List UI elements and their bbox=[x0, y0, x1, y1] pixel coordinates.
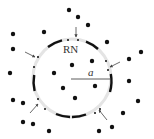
pore-marker-dot bbox=[77, 39, 79, 41]
particle-dot bbox=[139, 50, 143, 54]
pore-marker-dot bbox=[105, 60, 107, 62]
particle-dot bbox=[127, 57, 131, 61]
particle-dot bbox=[97, 129, 101, 133]
particle-dot bbox=[105, 40, 109, 44]
particle-dot bbox=[86, 23, 90, 27]
ring-segment bbox=[34, 75, 35, 91]
particle-dot bbox=[121, 111, 125, 115]
pore-marker-dot bbox=[94, 112, 96, 114]
arrow-icon bbox=[110, 62, 120, 67]
particle-dot bbox=[93, 84, 97, 88]
particle-dot bbox=[73, 96, 77, 100]
particle-dot bbox=[11, 32, 15, 36]
particle-dot bbox=[61, 86, 65, 90]
particle-dot bbox=[31, 122, 35, 126]
particle-dot bbox=[11, 98, 15, 102]
arrow-icon bbox=[25, 52, 35, 57]
pore-marker-dot bbox=[37, 56, 39, 58]
outside-particles bbox=[8, 8, 143, 133]
particle-dot bbox=[21, 101, 25, 105]
ring-segment bbox=[86, 42, 98, 49]
particle-dot bbox=[21, 120, 25, 124]
pore-marker-dot bbox=[33, 66, 35, 68]
particle-dot bbox=[110, 125, 114, 129]
particle-dot bbox=[11, 47, 15, 51]
inside-particles bbox=[52, 59, 97, 100]
center-label: RN bbox=[63, 43, 78, 55]
particle-dot bbox=[8, 71, 12, 75]
particle-dot bbox=[136, 99, 140, 103]
nuclear-pore-diagram: RN a bbox=[0, 0, 154, 139]
particle-dot bbox=[52, 71, 56, 75]
pore-marker-dot bbox=[37, 98, 39, 100]
particle-dot bbox=[127, 79, 131, 83]
pore-marker-dot bbox=[107, 69, 109, 71]
particle-dot bbox=[76, 15, 80, 19]
pore-marker-dot bbox=[67, 39, 69, 41]
pore-marker-dot bbox=[99, 108, 101, 110]
particle-dot bbox=[47, 129, 51, 133]
arrow-icon bbox=[30, 104, 38, 113]
particle-dot bbox=[42, 30, 46, 34]
pore-marker-dot bbox=[44, 108, 46, 110]
arrow-icon bbox=[99, 110, 107, 120]
particle-dot bbox=[67, 8, 71, 12]
particle-dot bbox=[70, 63, 74, 67]
radius-label: a bbox=[88, 66, 94, 78]
particle-dot bbox=[90, 59, 94, 63]
